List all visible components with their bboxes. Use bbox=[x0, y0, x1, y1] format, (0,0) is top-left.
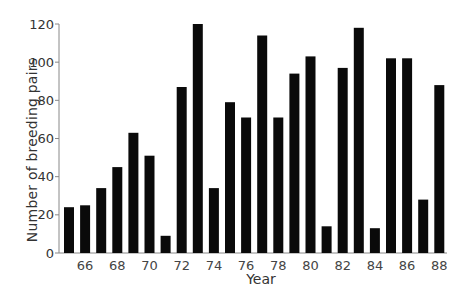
x-tick-label: 74 bbox=[206, 258, 223, 273]
bar-65 bbox=[64, 207, 74, 253]
bar-88 bbox=[434, 85, 444, 253]
bar-85 bbox=[386, 58, 396, 253]
x-tick-label: 88 bbox=[431, 258, 448, 273]
bar-78 bbox=[273, 118, 283, 254]
y-axis-label: Number of breeding pairs bbox=[24, 58, 40, 242]
bars bbox=[64, 24, 444, 253]
bar-73 bbox=[193, 24, 203, 253]
x-axis-label: Year bbox=[246, 271, 276, 287]
bar-86 bbox=[402, 58, 412, 253]
x-tick-label: 70 bbox=[141, 258, 158, 273]
bar-66 bbox=[80, 205, 90, 253]
x-tick-label: 72 bbox=[173, 258, 190, 273]
bar-70 bbox=[145, 156, 155, 253]
y-tick-label: 120 bbox=[29, 17, 54, 32]
x-tick-label: 84 bbox=[367, 258, 384, 273]
bar-74 bbox=[209, 188, 219, 253]
bar-chart: 020406080100120 666870727476788082848688 bbox=[0, 0, 459, 294]
x-axis: 666870727476788082848688 bbox=[59, 253, 448, 273]
x-tick-label: 80 bbox=[302, 258, 319, 273]
bar-83 bbox=[354, 28, 364, 253]
bar-72 bbox=[177, 87, 187, 253]
x-tick-label: 86 bbox=[399, 258, 416, 273]
x-tick-label: 68 bbox=[109, 258, 126, 273]
bar-82 bbox=[338, 68, 348, 253]
bar-75 bbox=[225, 102, 235, 253]
x-tick-label: 66 bbox=[77, 258, 94, 273]
bar-81 bbox=[322, 226, 332, 253]
bar-79 bbox=[289, 74, 299, 253]
bar-80 bbox=[306, 56, 316, 253]
bar-76 bbox=[241, 118, 251, 254]
bar-84 bbox=[370, 228, 380, 253]
bar-67 bbox=[96, 188, 106, 253]
bar-77 bbox=[257, 36, 267, 254]
bar-71 bbox=[161, 236, 171, 253]
x-tick-label: 82 bbox=[334, 258, 351, 273]
bar-68 bbox=[112, 167, 122, 253]
bar-69 bbox=[128, 133, 138, 253]
y-tick-label: 0 bbox=[46, 246, 54, 261]
bar-87 bbox=[418, 200, 428, 253]
